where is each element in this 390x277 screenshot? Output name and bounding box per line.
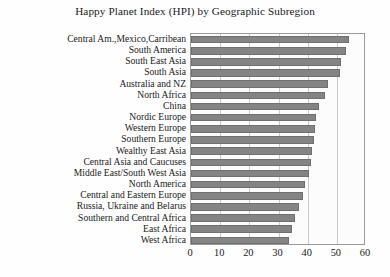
bar [191, 36, 349, 44]
bars-layer [191, 34, 364, 244]
bar-row [191, 179, 365, 190]
x-axis-tick-label: 20 [243, 247, 253, 258]
bar-row [191, 201, 365, 212]
y-axis-label: West Africa [141, 234, 186, 245]
x-axis-tick-label: 0 [187, 247, 192, 258]
x-axis-tick-label: 60 [360, 247, 370, 258]
bar [191, 147, 312, 155]
y-axis-label: Russia, Ukraine and Belarus [77, 200, 186, 211]
bar-row [191, 213, 365, 224]
bar [191, 237, 289, 245]
x-axis-tick-labels: 0102030405060 [190, 247, 365, 263]
y-axis-label: China [163, 100, 186, 111]
x-axis-tick-label: 30 [272, 247, 282, 258]
bar-row [191, 79, 365, 90]
y-axis-label: North America [129, 178, 186, 189]
x-axis-tick-label: 40 [301, 247, 311, 258]
y-axis-label: South East Asia [125, 55, 186, 66]
bar-row [191, 56, 365, 67]
y-axis-label: Central Asia and Caucuses [83, 156, 186, 167]
bar-row [191, 112, 365, 123]
bar-row [191, 224, 365, 235]
x-axis-tick-label: 10 [214, 247, 224, 258]
bar-row [191, 45, 365, 56]
bar-row [191, 123, 365, 134]
y-axis-label: Southern Europe [121, 133, 186, 144]
bar-row [191, 190, 365, 201]
y-axis-label: Western Europe [125, 122, 186, 133]
y-axis-label: Central and Eastern Europe [80, 189, 186, 200]
chart-container: Happy Planet Index (HPI) by Geographic S… [0, 0, 390, 277]
bar-row [191, 101, 365, 112]
y-axis-label: Central Am.,Mexico,Carribean [67, 33, 186, 44]
bar [191, 136, 314, 144]
bar-row [191, 146, 365, 157]
plot-area [190, 33, 365, 245]
y-axis-label: South America [129, 44, 186, 55]
y-axis-label: East Africa [143, 223, 186, 234]
bar-row [191, 157, 365, 168]
y-axis-category-labels: Central Am.,Mexico,CarribeanSouth Americ… [0, 33, 188, 245]
bar-row [191, 235, 365, 245]
bar [191, 80, 328, 88]
bar [191, 203, 299, 211]
bar [191, 103, 319, 111]
bar [191, 69, 340, 77]
y-axis-label: Australia and NZ [119, 78, 186, 89]
chart-title: Happy Planet Index (HPI) by Geographic S… [0, 5, 390, 17]
bar [191, 47, 346, 55]
bar [191, 58, 341, 66]
bar [191, 92, 325, 100]
x-axis-tick-label: 50 [331, 247, 341, 258]
bar-row [191, 67, 365, 78]
y-axis-label: South Asia [144, 66, 186, 77]
bar [191, 225, 292, 233]
bar [191, 192, 303, 200]
y-axis-label: Southern and Central Africa [78, 212, 186, 223]
bar-row [191, 90, 365, 101]
y-axis-label: North Africa [137, 89, 186, 100]
bar-row [191, 34, 365, 45]
bar [191, 159, 311, 167]
y-axis-label: Nordic Europe [129, 111, 186, 122]
bar [191, 114, 316, 122]
bar-row [191, 134, 365, 145]
y-axis-label: Middle East/South West Asia [74, 167, 186, 178]
bar-row [191, 168, 365, 179]
bar [191, 181, 305, 189]
bar [191, 170, 309, 178]
bar [191, 214, 295, 222]
y-axis-label: Wealthy East Asia [116, 145, 186, 156]
bar [191, 125, 315, 133]
